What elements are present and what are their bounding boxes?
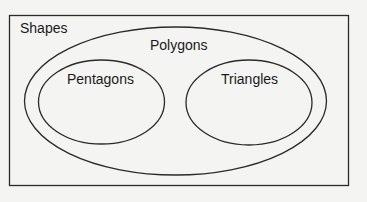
euler-diagram: Shapes Polygons Pentagons Triangles <box>0 0 367 202</box>
pentagons-label: Pentagons <box>67 71 134 87</box>
shapes-label: Shapes <box>20 20 67 36</box>
polygons-label: Polygons <box>150 37 208 53</box>
triangles-label: Triangles <box>221 71 278 87</box>
